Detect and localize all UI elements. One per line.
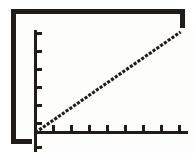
chart-frame — [11, 9, 185, 144]
data-series-line — [32, 28, 195, 153]
linear-trend-segment — [36, 32, 181, 133]
chart-screenshot — [0, 0, 195, 153]
plot-area — [32, 28, 195, 153]
